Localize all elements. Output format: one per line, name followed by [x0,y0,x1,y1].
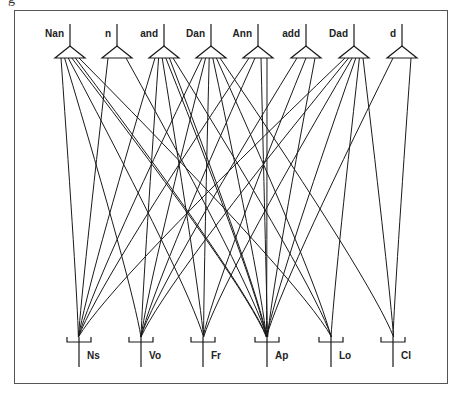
word-triangle [339,46,369,58]
feature-nodes: NsVoFrApLoCl [67,337,411,367]
edge-and-to-vo [141,58,159,337]
edge-and-to-fr [162,58,203,337]
edge-dan-to-vo [141,58,206,337]
word-triangle [291,46,321,58]
word-triangle [243,46,273,58]
edge-dan-to-lo [216,58,331,337]
word-node-and: and [140,24,179,58]
edge-dan-to-fr [204,58,210,337]
word-triangle [55,46,85,58]
feature-node-ap: Ap [255,337,288,367]
word-label: n [105,28,111,39]
word-label: Dan [186,28,205,39]
edge-dad-to-cl [363,58,394,337]
edge-d-to-ap [266,58,393,337]
word-feature-network-diagram: NannandDanAnnaddDadd NsVoFrApLoCl [0,0,466,400]
word-node-add: add [282,24,321,58]
feature-node-lo: Lo [319,337,351,367]
word-triangle [102,46,132,58]
feature-label: Cl [401,350,411,361]
word-label: d [390,28,396,39]
feature-node-ns: Ns [67,337,100,367]
feature-label: Ap [275,350,288,361]
feature-label: Fr [211,350,221,361]
word-node-dad: Dad [329,24,369,58]
word-label: Dad [329,28,348,39]
edge-ann-to-ap [266,58,267,337]
word-node-d: d [387,24,417,58]
word-node-ann: Ann [233,24,273,58]
connection-edges [61,58,411,337]
edge-dad-to-lo [331,58,359,337]
feature-node-fr: Fr [191,337,221,367]
edge-dad-to-ns [78,58,345,337]
edge-n-to-ap [126,58,267,337]
word-node-nan: Nan [45,24,85,58]
edge-dad-to-ap [266,58,355,337]
edge-nan-to-ns [61,58,78,337]
word-label: and [140,28,158,39]
word-node-n: n [102,24,132,58]
word-triangle [196,46,226,58]
word-nodes: NannandDanAnnaddDadd [45,24,417,58]
word-label: Nan [45,28,64,39]
feature-label: Ns [87,350,100,361]
word-label: Ann [233,28,252,39]
feature-node-cl: Cl [381,337,411,367]
word-node-dan: Dan [186,24,226,58]
feature-node-vo: Vo [129,337,161,367]
feature-label: Vo [149,350,161,361]
feature-label: Lo [339,350,351,361]
word-triangle [149,46,179,58]
edge-nan-to-lo [79,58,332,337]
word-label: add [282,28,300,39]
word-triangle [387,46,417,58]
edge-d-to-cl [393,58,411,337]
